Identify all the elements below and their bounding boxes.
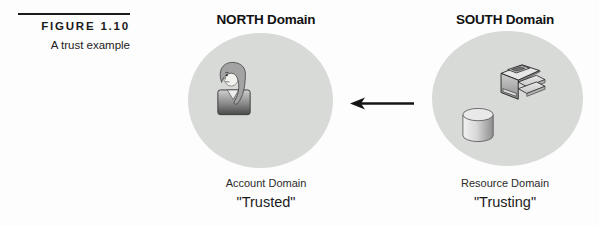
north-domain-title: NORTH Domain [186,12,346,27]
north-role-label: Account Domain [186,177,346,189]
south-domain-title: SOUTH Domain [425,12,585,27]
figure-caption: A trust example [0,39,130,51]
north-trust-label: "Trusted" [186,194,346,210]
printer-icon [495,60,553,104]
trust-arrow-icon [349,95,416,112]
figure-page: FIGURE 1.10 A trust example NORTH Domain… [0,0,599,226]
south-role-label: Resource Domain [425,177,585,189]
figure-label: FIGURE 1.10 [0,20,130,32]
user-icon [215,60,253,118]
north-domain-circle [188,33,333,168]
figure-rule [18,13,130,15]
disk-icon [461,106,497,144]
south-trust-label: "Trusting" [425,194,585,210]
